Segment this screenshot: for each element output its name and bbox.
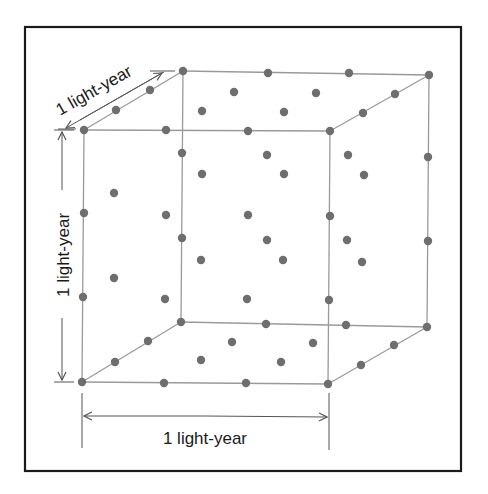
star-dot [244,211,252,219]
star-dot [162,211,170,219]
star-dot [178,234,186,242]
star-dot [242,379,250,387]
star-dot [326,127,334,135]
star-dot [358,258,366,266]
star-dot [230,88,238,96]
star-dot [357,361,365,369]
star-dot [280,170,288,178]
star-dot [343,236,351,244]
star-dot [146,86,154,94]
star-dot [309,339,317,347]
star-dot [345,69,353,77]
star-dot [325,296,333,304]
star-dot [344,151,352,159]
star-dot [198,107,206,115]
star-dot [161,295,169,303]
star-dot [324,380,332,388]
star-dot [423,323,431,331]
star-dot [243,295,251,303]
star-dot [80,209,88,217]
width-label: 1 light-year [163,429,247,448]
star-dot [197,356,205,364]
star-dot [264,69,272,77]
star-dot [198,170,206,178]
star-dot [390,341,398,349]
star-dot [79,293,87,301]
star-dot [312,89,320,97]
star-dot [263,236,271,244]
star-dot [280,108,288,116]
star-dot [326,212,334,220]
star-dot [279,256,287,264]
star-dot [179,67,187,75]
star-dot [262,320,270,328]
star-dot [144,337,152,345]
star-dot [263,151,271,159]
star-dot [78,378,86,386]
star-dot [80,126,88,134]
height-label: 1 light-year [54,213,73,297]
star-dot [112,106,120,114]
star-dot [342,321,350,329]
star-dot [111,358,119,366]
star-dot [424,153,432,161]
star-dot [177,318,185,326]
star-dot [197,256,205,264]
star-dot [391,90,399,98]
star-dot [277,358,285,366]
star-dot [160,379,168,387]
star-dot [110,274,118,282]
star-dot [178,149,186,157]
star-dot [228,338,236,346]
cubic-lattice-diagram: 1 light-year 1 light-year 1 light-year [0,0,488,494]
star-dot [424,237,432,245]
star-dot [244,127,252,135]
star-dot [110,189,118,197]
star-dot [425,71,433,79]
star-dot [162,126,170,134]
star-dot [359,109,367,117]
star-dot [360,171,368,179]
